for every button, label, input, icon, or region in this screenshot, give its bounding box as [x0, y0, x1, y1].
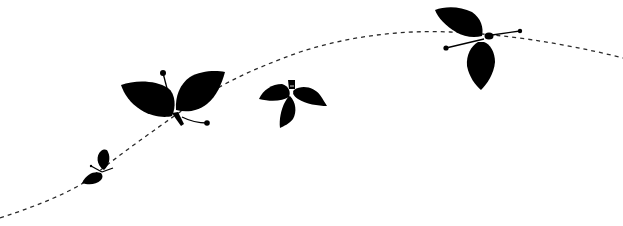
upper-right-butterfly-antenna-right-tip	[518, 29, 522, 33]
small-butterfly-upper-wing	[98, 150, 110, 170]
large-butterfly-right-wing	[176, 71, 225, 111]
butterfly-scene-canvas	[0, 0, 623, 226]
small-butterfly-antenna-tip	[90, 165, 92, 167]
butterfly-illustration	[0, 0, 623, 226]
medium-butterfly-right-wing	[293, 87, 327, 106]
upper-right-butterfly-body	[485, 33, 494, 40]
upper-right-butterfly-antenna-right	[492, 31, 520, 35]
small-butterfly-lower-wing	[82, 172, 103, 184]
upper-right-butterfly-top-wing	[435, 7, 483, 37]
medium-butterfly-icon	[259, 80, 327, 128]
small-butterfly-antenna	[91, 166, 102, 172]
large-butterfly-antenna-right-tip	[204, 120, 210, 126]
large-butterfly-antenna-right	[182, 117, 207, 123]
small-butterfly-icon	[82, 150, 113, 185]
medium-butterfly-lower-wing	[280, 96, 296, 128]
medium-butterfly-left-wing	[259, 84, 290, 101]
flight-path	[0, 32, 623, 218]
large-butterfly-body	[172, 112, 184, 126]
large-butterfly-antenna-top-tip	[160, 70, 166, 76]
upper-right-butterfly-bottom-wing	[467, 42, 495, 90]
upper-right-butterfly-icon	[435, 7, 522, 90]
medium-butterfly-body	[288, 80, 295, 89]
upper-right-butterfly-antenna-left-tip	[443, 45, 448, 50]
